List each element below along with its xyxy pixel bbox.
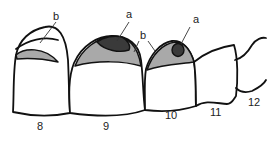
leader-a-right	[181, 27, 190, 44]
tooth-number-12: 12	[248, 96, 260, 108]
label-b-left: b	[53, 10, 59, 22]
tooth-diagram: b a b a 8 9 10 11 12	[0, 0, 277, 145]
label-b-middle: b	[140, 29, 146, 41]
tooth-number-9: 9	[103, 120, 109, 132]
tooth-number-8: 8	[37, 120, 43, 132]
label-a-right: a	[193, 13, 200, 25]
tooth-number-10: 10	[165, 109, 177, 121]
tooth-9	[69, 36, 145, 115]
label-a-left: a	[126, 8, 133, 20]
tooth-number-11: 11	[210, 106, 221, 118]
tooth-12	[235, 38, 266, 92]
leader-b-middle-to-10	[148, 41, 155, 51]
lesion-a-tooth-10	[172, 44, 184, 57]
tooth-11	[194, 45, 237, 106]
tooth-8	[13, 27, 70, 116]
tooth-10	[145, 41, 196, 111]
